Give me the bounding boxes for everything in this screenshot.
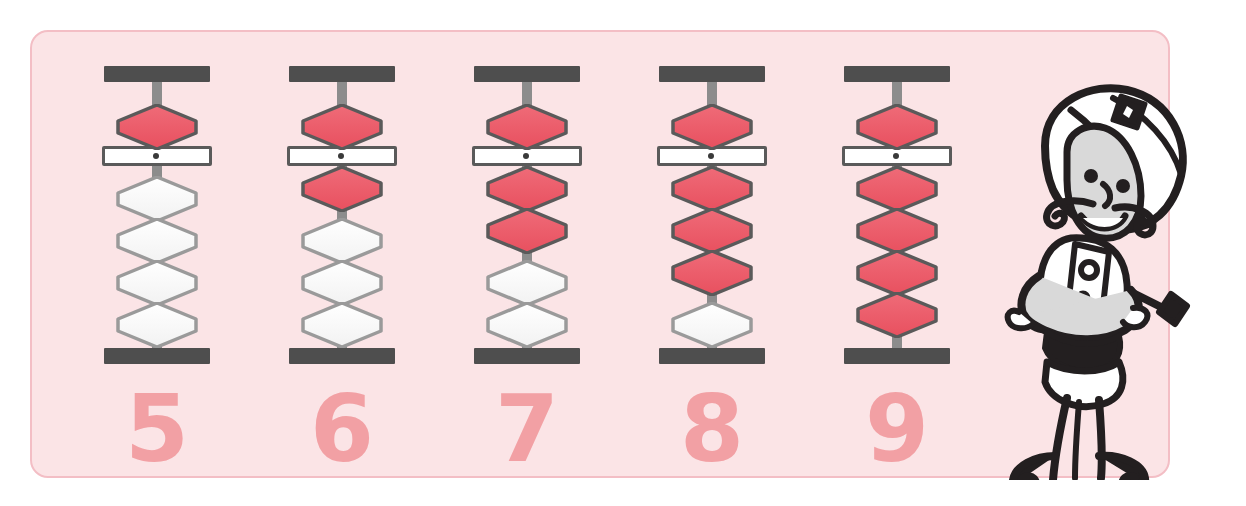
earth-bead-active[interactable] [669, 166, 755, 212]
earth-bead-active[interactable] [484, 208, 570, 254]
abacus-unit-dot [708, 153, 714, 159]
earth-bead-active[interactable] [854, 250, 940, 296]
abacus-unit-dot [523, 153, 529, 159]
abacus-numeral-label: 9 [832, 384, 962, 476]
abacus-frame-bottom [659, 348, 765, 364]
earth-bead-inactive[interactable] [299, 302, 385, 348]
heaven-bead[interactable] [299, 104, 385, 150]
earth-bead-inactive[interactable] [299, 260, 385, 306]
earth-bead-inactive[interactable] [484, 260, 570, 306]
abacus-unit-dot [893, 153, 899, 159]
earth-bead-inactive[interactable] [114, 176, 200, 222]
abacus-frame-top [104, 66, 210, 82]
abacus-frame-bottom [104, 348, 210, 364]
earth-bead-inactive[interactable] [114, 260, 200, 306]
abacus-unit-dot [153, 153, 159, 159]
abacus-unit-dot [338, 153, 344, 159]
abacus-numeral-label: 6 [277, 384, 407, 476]
earth-bead-active[interactable] [299, 166, 385, 212]
earth-bead-active[interactable] [854, 292, 940, 338]
abacus-frame-bottom [289, 348, 395, 364]
abacus-numeral-label: 7 [462, 384, 592, 476]
heaven-bead[interactable] [484, 104, 570, 150]
abacus-frame-top [844, 66, 950, 82]
abacus-frame-bottom [844, 348, 950, 364]
earth-bead-inactive[interactable] [299, 218, 385, 264]
earth-bead-inactive[interactable] [114, 218, 200, 264]
abacus-numeral-label: 5 [92, 384, 222, 476]
earth-bead-inactive[interactable] [669, 302, 755, 348]
earth-bead-active[interactable] [854, 166, 940, 212]
earth-bead-active[interactable] [669, 250, 755, 296]
illustration-canvas: 56789 [0, 0, 1246, 506]
earth-bead-active[interactable] [854, 208, 940, 254]
abacus-frame-top [289, 66, 395, 82]
mustached-genie-character-icon [975, 80, 1235, 480]
heaven-bead[interactable] [114, 104, 200, 150]
abacus-numeral-label: 8 [647, 384, 777, 476]
abacus-frame-top [659, 66, 765, 82]
earth-bead-inactive[interactable] [484, 302, 570, 348]
abacus-frame-top [474, 66, 580, 82]
abacus-frame-bottom [474, 348, 580, 364]
earth-bead-active[interactable] [669, 208, 755, 254]
heaven-bead[interactable] [669, 104, 755, 150]
heaven-bead[interactable] [854, 104, 940, 150]
earth-bead-inactive[interactable] [114, 302, 200, 348]
earth-bead-active[interactable] [484, 166, 570, 212]
